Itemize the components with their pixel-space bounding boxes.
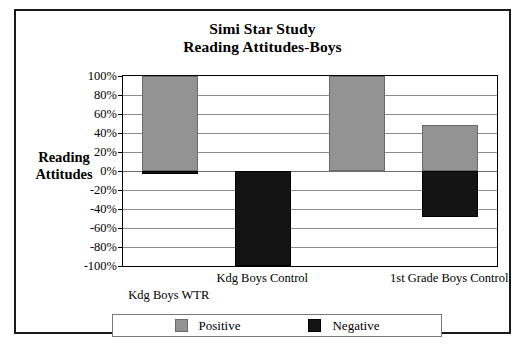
gridline bbox=[123, 228, 497, 229]
y-tick-label: -100% bbox=[71, 260, 117, 273]
bar-positive bbox=[329, 76, 385, 171]
y-tickmark bbox=[118, 133, 123, 134]
legend-entry-negative: Negative bbox=[308, 319, 379, 332]
chart-title-line2: Reading Attitudes-Boys bbox=[16, 38, 509, 56]
y-tick-label: -80% bbox=[71, 241, 117, 254]
y-tick-label: 100% bbox=[71, 70, 117, 83]
chart-legend: Positive Negative bbox=[112, 314, 442, 337]
y-tick-label: -40% bbox=[71, 203, 117, 216]
y-tick-label: 80% bbox=[71, 89, 117, 102]
legend-entry-positive: Positive bbox=[175, 319, 241, 332]
y-tickmark bbox=[118, 76, 123, 77]
y-tick-label: -20% bbox=[71, 184, 117, 197]
y-tick-label: 0% bbox=[71, 165, 117, 178]
bar-positive bbox=[142, 76, 198, 171]
y-tickmark bbox=[118, 266, 123, 267]
bar-negative bbox=[142, 171, 198, 174]
y-tickmark bbox=[118, 152, 123, 153]
y-tick-label: -60% bbox=[71, 222, 117, 235]
category-label: 1st Grade Boys Control bbox=[359, 271, 527, 285]
y-tick-label: 40% bbox=[71, 127, 117, 140]
gridline bbox=[123, 247, 497, 248]
legend-label-positive: Positive bbox=[199, 319, 241, 332]
y-tickmark bbox=[118, 190, 123, 191]
y-tick-label: 20% bbox=[71, 146, 117, 159]
category-label: Kdg Boys WTR bbox=[79, 288, 259, 302]
chart-title-line1: Simi Star Study bbox=[209, 20, 315, 37]
category-label: Kdg Boys Control bbox=[172, 271, 352, 285]
y-tickmark bbox=[118, 114, 123, 115]
chart-card: Simi Star Study Reading Attitudes-Boys R… bbox=[14, 9, 511, 334]
positive-swatch-icon bbox=[175, 319, 188, 332]
legend-label-negative: Negative bbox=[332, 319, 379, 332]
y-tickmark bbox=[118, 228, 123, 229]
y-tickmark bbox=[118, 247, 123, 248]
y-tick-label: 60% bbox=[71, 108, 117, 121]
negative-swatch-icon bbox=[308, 319, 321, 332]
y-tickmark bbox=[118, 209, 123, 210]
bar-negative bbox=[422, 171, 478, 217]
bar-negative bbox=[235, 171, 291, 266]
y-tickmark bbox=[118, 95, 123, 96]
chart-title: Simi Star Study Reading Attitudes-Boys bbox=[16, 20, 509, 56]
plot-area: 100%80%60%40%20%0%-20%-40%-60%-80%-100% bbox=[122, 75, 498, 267]
y-tickmark bbox=[118, 171, 123, 172]
bar-positive bbox=[422, 125, 478, 171]
